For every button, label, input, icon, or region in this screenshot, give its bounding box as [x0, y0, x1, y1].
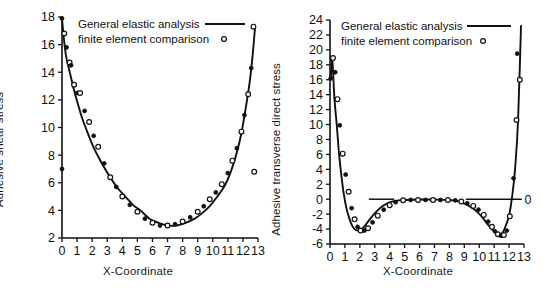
- legend-label-finite-element-comparison: finite element comparison: [78, 33, 209, 45]
- y-tick-label: -6: [312, 237, 323, 251]
- series-marker-finite-element: [465, 201, 469, 205]
- x-tick-label: 9: [194, 244, 201, 258]
- series-marker-finite-element: [409, 198, 413, 202]
- x-tick-label: 12: [236, 244, 250, 258]
- y-tick-label: 6: [48, 176, 55, 190]
- figure-two-panel-stress-plots: Adhesive shear stress 246810121416180123…: [0, 0, 558, 299]
- series-marker-finite-element: [78, 91, 83, 96]
- series-marker-finite-element: [188, 215, 192, 219]
- series-marker-finite-element: [202, 204, 206, 208]
- x-tick-label: 6: [416, 250, 423, 264]
- x-tick-label: 5: [134, 244, 141, 258]
- y-tick-label: 22: [309, 28, 323, 42]
- series-marker-finite-element: [486, 220, 490, 224]
- y-tick-label: 12: [309, 103, 323, 117]
- series-marker-finite-element: [401, 198, 406, 203]
- y-tick-label: -2: [312, 208, 323, 222]
- series-marker-finite-element: [249, 66, 253, 70]
- series-marker-finite-element: [165, 223, 170, 228]
- series-marker-finite-element: [83, 109, 87, 113]
- y-tick-label: 2: [48, 231, 55, 245]
- series-marker-finite-element: [180, 219, 185, 224]
- y-tick-label: 12: [41, 93, 55, 107]
- series-marker-finite-element: [346, 189, 351, 194]
- series-marker-finite-element: [424, 198, 428, 202]
- series-marker-finite-element: [243, 113, 247, 117]
- series-marker-finite-element: [453, 198, 457, 202]
- series-marker-finite-element: [60, 16, 64, 20]
- series-marker-finite-element: [158, 224, 162, 228]
- y-tick-label: 10: [41, 121, 55, 135]
- x-tick-label: 3: [371, 250, 378, 264]
- y-tick-label: 20: [309, 43, 323, 57]
- x-tick-label: 1: [341, 250, 348, 264]
- series-marker-finite-element: [251, 24, 256, 29]
- series-marker-finite-element: [344, 173, 348, 177]
- series-marker-finite-element: [471, 204, 476, 209]
- series-marker-finite-element: [382, 208, 386, 212]
- series-marker-finite-element: [226, 171, 230, 175]
- series-marker-finite-element: [445, 198, 450, 203]
- series-marker-finite-element: [102, 162, 106, 166]
- x-tick-label: 2: [356, 250, 363, 264]
- x-tick-label: 1: [74, 244, 81, 258]
- series-marker-finite-element: [96, 144, 101, 149]
- series-marker-finite-element: [375, 213, 380, 218]
- series-marker-finite-element: [416, 198, 421, 203]
- series-marker-finite-element: [207, 197, 212, 202]
- series-marker-finite-element: [507, 214, 512, 219]
- series-marker-finite-element: [501, 233, 506, 238]
- series-marker-finite-element: [87, 120, 92, 125]
- x-tick-label: 10: [206, 244, 220, 258]
- series-marker-finite-element: [195, 209, 200, 214]
- series-marker-finite-element: [431, 198, 436, 203]
- y-tick-label: 24: [309, 13, 323, 27]
- y-tick-label: 16: [309, 73, 323, 87]
- x-tick-label: 9: [461, 250, 468, 264]
- series-marker-finite-element: [235, 146, 239, 150]
- y-tick-label: 6: [316, 148, 323, 162]
- y-tick-label: 4: [48, 204, 55, 218]
- series-marker-finite-element: [173, 222, 177, 226]
- zero-reference-label: 0: [524, 193, 531, 207]
- x-tick-label: 7: [431, 250, 438, 264]
- legend-swatch-open-circle: [481, 39, 486, 44]
- y-tick-label: 8: [48, 149, 55, 163]
- series-marker-finite-element: [69, 63, 73, 67]
- series-marker-finite-element: [340, 151, 345, 156]
- x-tick-label: 3: [104, 244, 111, 258]
- series-marker-finite-element: [338, 123, 342, 127]
- x-tick-label: 6: [149, 244, 156, 258]
- x-tick-label: 7: [164, 244, 171, 258]
- series-marker-finite-element: [512, 176, 516, 180]
- x-tick-label: 5: [401, 250, 408, 264]
- series-marker-finite-element: [333, 70, 337, 74]
- series-marker-finite-element: [128, 203, 132, 207]
- legend-swatch-open-circle: [222, 37, 227, 42]
- series-marker-finite-element: [331, 56, 336, 61]
- series-marker-finite-element: [481, 212, 486, 217]
- series-marker-finite-element: [366, 226, 371, 231]
- y-tick-label: -4: [312, 222, 323, 236]
- series-marker-finite-element: [350, 206, 354, 210]
- series-marker-finite-element: [352, 217, 357, 222]
- chart-panel-adhesive-shear-stress: Adhesive shear stress 246810121416180123…: [0, 0, 279, 299]
- series-marker-finite-element: [108, 175, 113, 180]
- series-marker-finite-element: [65, 45, 69, 49]
- series-marker-finite-element: [239, 129, 244, 134]
- x-tick-label: 4: [386, 250, 393, 264]
- series-marker-finite-element: [514, 118, 519, 123]
- legend-label-general-elastic-analysis: General elastic analysis: [78, 18, 200, 30]
- series-marker-finite-element: [505, 229, 509, 233]
- series-marker-finite-element: [517, 77, 522, 82]
- series-marker-finite-element: [230, 158, 235, 163]
- y-tick-label: 18: [309, 58, 323, 72]
- y-tick-label: 18: [41, 10, 55, 24]
- series-marker-finite-element: [477, 208, 481, 212]
- series-marker-finite-element: [120, 194, 125, 199]
- y-tick-label: 0: [316, 193, 323, 207]
- series-marker-finite-element: [387, 203, 392, 208]
- series-marker-finite-element: [62, 31, 67, 36]
- legend-label-general-elastic-analysis: General elastic analysis: [341, 20, 463, 32]
- series-marker-finite-element: [114, 185, 118, 189]
